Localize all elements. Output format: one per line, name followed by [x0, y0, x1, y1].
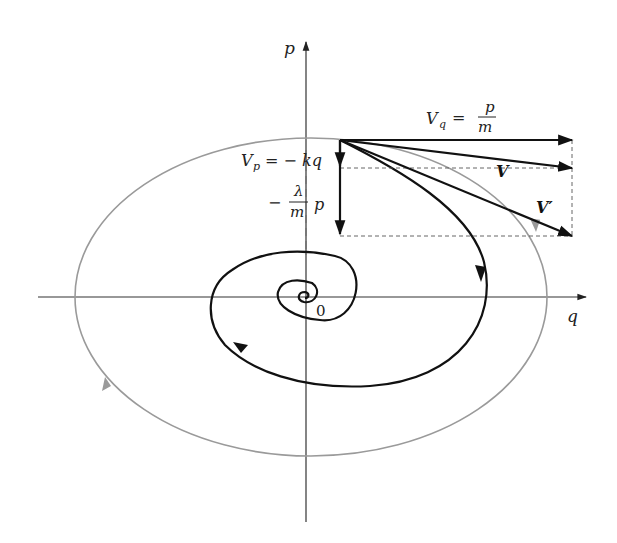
- v-label: V: [496, 162, 510, 181]
- svg-text:=: =: [452, 108, 465, 127]
- vq-label: V q = p m: [426, 98, 496, 136]
- svg-text:m: m: [290, 203, 304, 221]
- phase-plane-diagram: p q 0 V q = p m V p = − kq − λ m p V V′: [0, 0, 617, 543]
- spiral-arrow-right-icon: [475, 265, 486, 282]
- spiral-arrow-left-icon: [233, 342, 248, 353]
- svg-text:m: m: [478, 118, 492, 136]
- origin-label: 0: [316, 302, 326, 320]
- svg-text:p: p: [314, 195, 324, 214]
- svg-text:p: p: [253, 160, 260, 173]
- q-axis-label: q: [567, 306, 578, 326]
- svg-text:q: q: [439, 118, 446, 131]
- dashed-guides: [306, 140, 572, 255]
- svg-text:= − kq: = − kq: [265, 151, 322, 170]
- svg-text:−: −: [268, 193, 281, 212]
- v-prime-label: V′: [536, 198, 553, 217]
- velocity-vectors: [340, 140, 572, 236]
- svg-text:λ: λ: [293, 182, 304, 200]
- svg-text:p: p: [485, 98, 495, 116]
- vp-label: V p = − kq: [241, 151, 322, 173]
- p-axis-label: p: [284, 38, 295, 58]
- damped-spiral: [211, 140, 487, 387]
- damping-label: − λ m p: [268, 182, 324, 221]
- svg-text:V: V: [426, 109, 439, 128]
